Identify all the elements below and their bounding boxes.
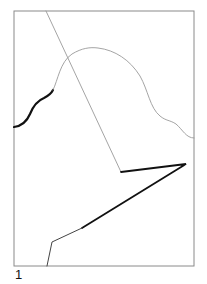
polyline-tail xyxy=(47,228,82,266)
polyline-thick xyxy=(82,164,186,228)
diagram-paths xyxy=(14,11,194,266)
curve-thin xyxy=(53,48,194,138)
diagonal-thin xyxy=(46,11,121,172)
figure-label: 1 xyxy=(15,268,22,282)
diagram-canvas xyxy=(0,0,207,284)
curve-thick-start xyxy=(14,90,53,127)
